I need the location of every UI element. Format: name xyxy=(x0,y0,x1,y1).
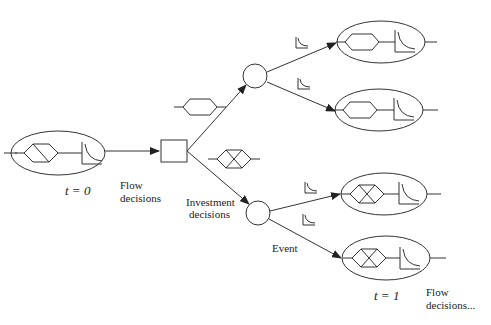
hexagon-slashed-icon xyxy=(15,144,67,162)
hexagon-crossed-icon xyxy=(208,150,260,168)
time-label-t0: t = 0 xyxy=(65,183,91,198)
decay-curve-icon xyxy=(82,142,102,164)
chance-node-top[interactable] xyxy=(243,64,267,88)
decay-curve-icon xyxy=(399,182,419,204)
decay-curve-icon xyxy=(305,182,317,193)
edge-chance-top-to-state-b xyxy=(267,82,335,111)
chance-node-bottom[interactable] xyxy=(246,201,270,225)
flow-decisions-next-label: Flow decisions... xyxy=(426,286,475,311)
state-ellipse-t1-c[interactable] xyxy=(341,173,441,215)
edge-chance-bottom-to-state-c xyxy=(270,194,340,211)
decay-curve-icon xyxy=(394,98,414,120)
decay-curve-icon xyxy=(395,30,415,52)
flow-decisions-label: Flow decisions xyxy=(120,179,161,204)
event-label: Event xyxy=(272,242,298,254)
hexagon-icon xyxy=(336,34,388,50)
decay-curve-icon xyxy=(296,37,308,48)
investment-decisions-label: Investment decisions xyxy=(186,196,238,220)
decay-curve-icon xyxy=(298,78,310,89)
hexagon-icon xyxy=(334,102,386,118)
state-ellipse-t1-d[interactable] xyxy=(342,236,446,280)
decision-node[interactable] xyxy=(161,140,187,162)
decay-curve-icon xyxy=(303,214,315,225)
state-ellipse-t1-a[interactable] xyxy=(336,21,437,63)
decay-curve-icon xyxy=(400,247,420,269)
hexagon-icon xyxy=(174,99,226,115)
decision-tree-diagram: t = 0 Flow decisions Investment decision… xyxy=(0,0,491,325)
hexagon-crossed-icon xyxy=(343,249,395,267)
time-label-t1: t = 1 xyxy=(374,288,399,303)
edge-decision-to-chance-top xyxy=(187,85,246,151)
state-ellipse-t1-b[interactable] xyxy=(334,89,438,131)
hexagon-crossed-icon xyxy=(341,185,393,203)
edge-chance-top-to-state-a xyxy=(267,43,336,72)
state-ellipse-t0[interactable] xyxy=(4,131,105,175)
